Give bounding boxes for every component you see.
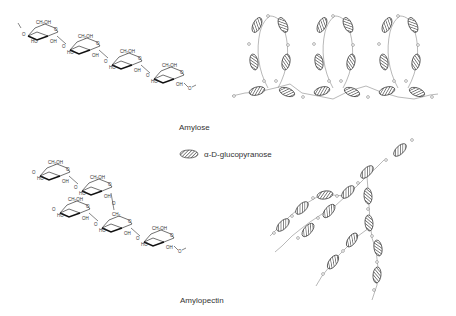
amylopectin-residue-5: CH₂OH O HO OH O O [136,226,186,254]
amylopectin-residue-4: CH₂ O HO OH O [94,212,132,236]
svg-text:CH₂OH: CH₂OH [162,63,177,68]
amylopectin-branch-schematic [270,139,413,300]
svg-text:O: O [138,56,142,61]
svg-text:O: O [104,59,108,64]
amylopectin-residue-2: CH₂OH O HO OH O [74,175,112,199]
helix-loop-3 [367,15,434,99]
svg-text:CH₂: CH₂ [112,212,120,217]
svg-text:O: O [170,233,174,238]
svg-text:O: O [74,185,78,190]
legend-text: α-D-glucopyranose [204,150,272,159]
svg-text:O: O [180,70,184,75]
svg-text:O: O [32,170,36,175]
svg-text:OH: OH [50,39,57,44]
svg-text:OH: OH [92,53,99,58]
amylose-label: Amylose [179,123,210,132]
amylose-structure: CH₂OH O HO OH O CH₂OH O HO OH O CH₂OH O … [18,20,196,91]
helix-loop-2 [302,15,361,99]
svg-text:OH: OH [134,68,141,73]
svg-text:CH₂OH: CH₂OH [68,197,83,202]
svg-text:HO: HO [151,79,158,84]
svg-text:OH: OH [176,82,183,87]
svg-text:HO: HO [99,228,106,233]
amylopectin-residue-3: CH₂OH O HO OH O [52,197,90,221]
svg-text:O: O [62,44,66,49]
svg-text:O: O [188,86,192,91]
svg-text:O: O [128,219,132,224]
svg-text:OH: OH [166,245,173,250]
svg-text:OH: OH [124,231,131,236]
svg-text:HO: HO [67,50,74,55]
svg-text:HO: HO [37,176,44,181]
svg-text:O: O [22,32,26,37]
svg-text:HO: HO [79,191,86,196]
svg-text:HO: HO [31,39,38,44]
amylose-residue-2: CH₂OH O HO OH O [62,34,100,58]
svg-text:CH₂OH: CH₂OH [78,34,93,39]
svg-text:CH₂OH: CH₂OH [90,175,105,180]
svg-text:CH₂OH: CH₂OH [120,49,135,54]
glucopyranose-ellipse-icon [179,149,199,159]
svg-text:HO: HO [141,242,148,247]
svg-text:CH₂OH: CH₂OH [48,160,63,165]
amylopectin-label: Amylopectin [180,296,224,305]
svg-text:OH: OH [62,179,69,184]
svg-text:O: O [112,201,116,206]
helix-loop-1 [233,15,296,99]
amylose-residue-4: CH₂OH O HO OH O O [146,63,196,91]
amylopectin-residue-1: CH₂OH O HO OH O [32,160,70,184]
svg-text:O: O [52,207,56,212]
svg-text:OH: OH [104,194,111,199]
svg-text:O: O [108,182,112,187]
legend: α-D-glucopyranose [179,149,272,159]
svg-text:O: O [66,167,70,172]
svg-text:O: O [178,249,182,254]
amylose-residue-1: CH₂OH O HO OH O [22,20,58,44]
svg-text:OH: OH [82,216,89,221]
svg-text:O: O [94,222,98,227]
svg-text:O: O [54,27,58,32]
svg-text:O: O [136,236,140,241]
amylose-residue-3: CH₂OH O HO OH O [104,49,142,73]
svg-text:O: O [86,204,90,209]
svg-text:O: O [146,73,150,78]
svg-text:HO: HO [109,65,116,70]
amylopectin-structure: CH₂OH O HO OH O CH₂OH O HO OH O CH₂OH O … [32,160,186,254]
svg-text:CH₂OH: CH₂OH [36,20,51,25]
amylose-helix-schematic [232,15,438,99]
svg-text:HO: HO [57,213,64,218]
svg-text:CH₂OH: CH₂OH [152,226,167,231]
svg-text:O: O [96,41,100,46]
